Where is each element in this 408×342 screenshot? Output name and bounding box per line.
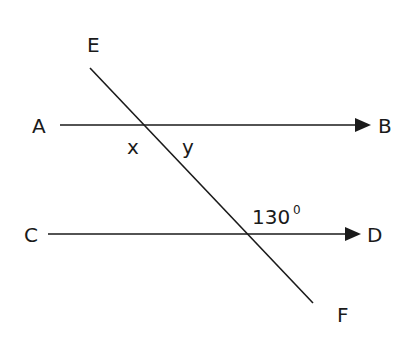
transversal-ef xyxy=(90,68,313,303)
angle-130-value: 130 xyxy=(252,205,290,229)
label-d: D xyxy=(367,223,382,247)
label-e: E xyxy=(87,33,100,57)
arrow-d-icon xyxy=(345,227,361,241)
label-a: A xyxy=(32,114,46,138)
label-f: F xyxy=(337,303,349,327)
angle-y-label: y xyxy=(182,135,194,159)
label-c: C xyxy=(24,223,38,247)
angle-130-degree-mark: 0 xyxy=(293,203,301,217)
arrow-b-icon xyxy=(355,118,371,132)
angle-x-label: x xyxy=(127,135,139,159)
line-ab xyxy=(60,118,371,132)
line-cd xyxy=(48,227,361,241)
label-b: B xyxy=(378,114,392,138)
parallel-lines-diagram: A B C D E F x y 130 0 xyxy=(0,0,408,342)
